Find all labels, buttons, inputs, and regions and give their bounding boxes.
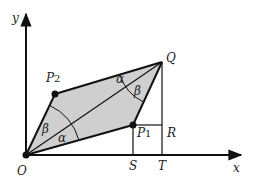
label-S: S — [129, 159, 137, 173]
beta-label-O: β — [41, 122, 49, 136]
point-O — [23, 152, 30, 159]
beta-label-Q: β — [133, 84, 141, 98]
label-P2: P2 — [45, 71, 60, 85]
label-O: O — [17, 164, 27, 178]
label-R: R — [166, 126, 176, 140]
label-T: T — [158, 159, 167, 173]
label-x-axis: x — [233, 161, 240, 175]
label-Q: Q — [166, 51, 176, 65]
alpha-label-O: α — [58, 131, 66, 145]
parallelogram-diagram: α β α β y x O Q R S T P1 P2 — [0, 0, 253, 183]
alpha-label-Q: α — [116, 72, 124, 86]
label-P1: P1 — [136, 126, 151, 140]
point-P1 — [130, 122, 137, 129]
point-P2 — [52, 91, 59, 98]
label-y-axis: y — [11, 11, 19, 25]
